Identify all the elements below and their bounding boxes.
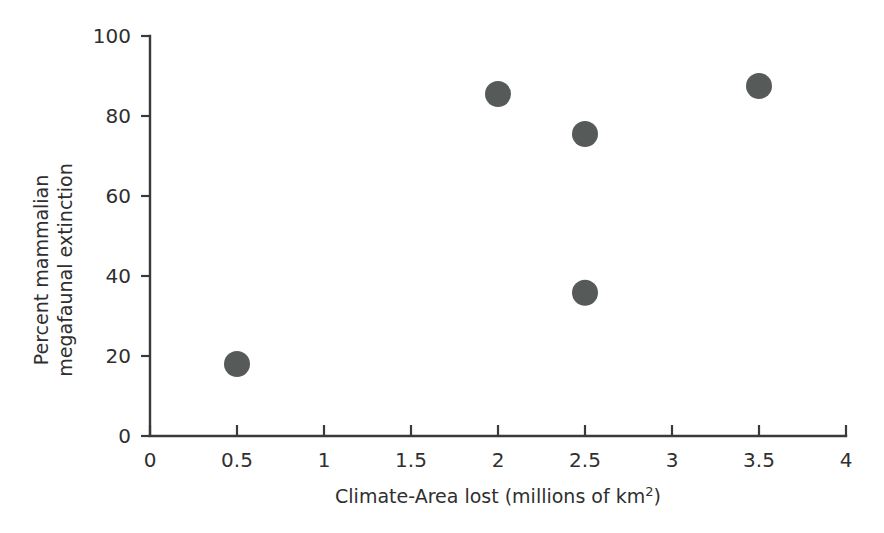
scatter-plot-figure: 100 80 60 40 20 0 0 0.5 1 1.5 2 2.5 <box>0 0 884 533</box>
x-axis-title-close: ) <box>653 485 660 507</box>
x-axis-title-main: Climate-Area lost (millions of km <box>335 485 645 507</box>
y-axis-title-line2: megafaunal extinction <box>54 163 76 377</box>
x-tick-labels: 0 0.5 1 1.5 2 2.5 3 3.5 4 <box>144 448 853 472</box>
y-tick-labels: 100 80 60 40 20 0 <box>93 24 131 448</box>
plot-canvas: 100 80 60 40 20 0 0 0.5 1 1.5 2 2.5 <box>0 0 884 533</box>
x-tick-label-0-5: 0.5 <box>221 448 253 472</box>
x-tick-label-1-5: 1.5 <box>395 448 427 472</box>
y-axis-title: Percent mammalian megafaunal extinction <box>30 163 76 377</box>
data-point <box>572 121 598 147</box>
data-points-layer <box>224 73 772 377</box>
x-tick-label-4: 4 <box>840 448 853 472</box>
y-tick-label-20: 20 <box>106 344 131 368</box>
y-tick-label-60: 60 <box>106 184 131 208</box>
x-tick-label-2-5: 2.5 <box>569 448 601 472</box>
y-tickmarks <box>141 36 150 436</box>
y-tick-label-80: 80 <box>106 104 131 128</box>
x-tick-label-1: 1 <box>318 448 331 472</box>
x-tick-label-3: 3 <box>666 448 679 472</box>
x-tick-label-0: 0 <box>144 448 157 472</box>
y-tick-label-40: 40 <box>106 264 131 288</box>
x-tickmarks <box>150 425 846 436</box>
y-tick-label-0: 0 <box>118 424 131 448</box>
x-axis-title: Climate-Area lost (millions of km2) <box>335 484 661 507</box>
x-tick-label-2: 2 <box>492 448 505 472</box>
y-tick-label-100: 100 <box>93 24 131 48</box>
x-axis-title-text: Climate-Area lost (millions of km2) <box>335 484 661 507</box>
y-axis-title-line1: Percent mammalian <box>30 175 52 366</box>
x-tick-label-3-5: 3.5 <box>743 448 775 472</box>
data-point <box>485 81 511 107</box>
data-point <box>224 351 250 377</box>
x-axis-title-superscript: 2 <box>645 484 653 499</box>
data-point <box>746 73 772 99</box>
data-point <box>572 280 598 306</box>
